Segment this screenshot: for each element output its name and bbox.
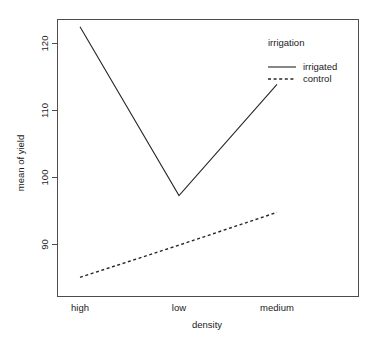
y-axis-title: mean of yield bbox=[15, 135, 26, 192]
x-axis: high low medium bbox=[71, 302, 294, 313]
interaction-plot: 90 100 110 120 mean of yield high low me… bbox=[0, 0, 380, 342]
data-series-group bbox=[80, 27, 277, 278]
x-category-label-medium: medium bbox=[260, 302, 294, 313]
x-axis-title: density bbox=[192, 319, 222, 330]
y-tick-label-120: 120 bbox=[39, 36, 50, 52]
x-category-label-high: high bbox=[71, 302, 89, 313]
series-line-control bbox=[80, 212, 277, 277]
legend-label-control: control bbox=[303, 73, 332, 84]
chart-canvas: 90 100 110 120 mean of yield high low me… bbox=[0, 0, 380, 342]
y-tick-label-90: 90 bbox=[39, 239, 50, 250]
legend-title: irrigation bbox=[268, 37, 304, 48]
y-tick-label-110: 110 bbox=[39, 103, 50, 118]
legend-label-irrigated: irrigated bbox=[303, 61, 337, 72]
series-line-irrigated bbox=[80, 27, 277, 196]
y-tick-label-100: 100 bbox=[39, 170, 50, 186]
legend: irrigation irrigated control bbox=[268, 37, 337, 84]
x-category-label-low: low bbox=[172, 302, 186, 313]
y-axis: 90 100 110 120 bbox=[39, 36, 58, 250]
